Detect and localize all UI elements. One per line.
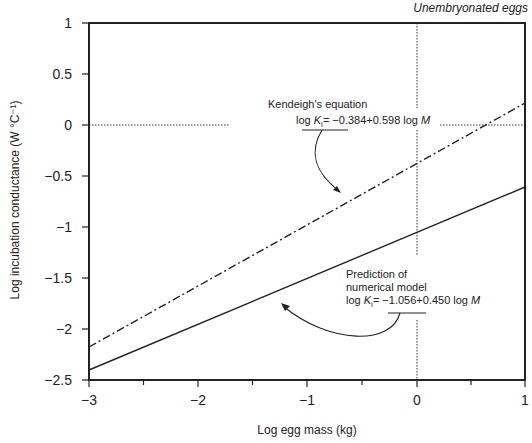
reference-lines	[89, 23, 524, 380]
x-tick-labels: −3 −2 −1 0 1	[81, 392, 529, 408]
svg-text:−0.5: −0.5	[44, 168, 72, 184]
svg-text:1: 1	[521, 392, 529, 408]
svg-text:−2.5: −2.5	[44, 372, 72, 388]
svg-text:−3: −3	[81, 392, 97, 408]
svg-text:−2: −2	[190, 392, 206, 408]
svg-text:0: 0	[413, 392, 421, 408]
svg-text:0: 0	[64, 117, 72, 133]
svg-text:log Ki= −1.056+0.450 log M: log Ki= −1.056+0.450 log M	[346, 294, 481, 309]
chart: Unembryonated eggs 1 0.5 0 −0.5 −1 −1.5 …	[0, 0, 532, 443]
series-kendeigh-line	[89, 103, 525, 347]
series-model-line	[89, 187, 525, 370]
svg-text:Prediction of: Prediction of	[346, 268, 408, 280]
annotation-model: Prediction of numerical model log Ki= −1…	[281, 268, 481, 336]
svg-text:Kendeigh's equation: Kendeigh's equation	[268, 98, 367, 110]
y-ticks	[82, 23, 89, 380]
annotation-kendeigh: Kendeigh's equation log Ki= −0.384+0.598…	[268, 98, 431, 193]
svg-text:−1.5: −1.5	[44, 270, 72, 286]
svg-text:−1: −1	[56, 219, 72, 235]
svg-text:log Ki= −0.384+0.598 log M: log Ki= −0.384+0.598 log M	[296, 114, 431, 129]
arrow-model	[283, 306, 400, 336]
chart-title: Unembryonated eggs	[413, 1, 528, 15]
x-ticks	[89, 380, 525, 387]
x-axis-title: Log egg mass (kg)	[257, 423, 356, 437]
svg-text:1: 1	[64, 15, 72, 31]
arrow-kendeigh	[315, 130, 339, 191]
svg-text:0.5: 0.5	[53, 66, 73, 82]
plot-frame	[89, 23, 525, 380]
svg-text:−2: −2	[56, 321, 72, 337]
y-tick-labels: 1 0.5 0 −0.5 −1 −1.5 −2 −2.5	[44, 15, 72, 388]
y-axis-title: Log incubation conductance (W °C⁻¹)	[8, 101, 22, 300]
svg-text:numerical model: numerical model	[346, 281, 427, 293]
svg-text:−1: −1	[299, 392, 315, 408]
